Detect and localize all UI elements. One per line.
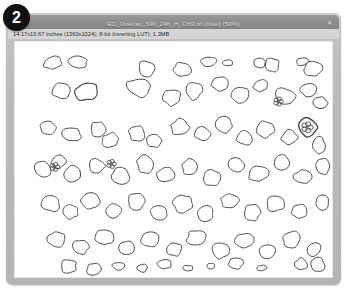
cell-outline [106,204,122,219]
cell-outline [222,60,232,66]
cell-cluster [50,162,59,171]
cell-outline [41,196,59,212]
cell-outline [236,130,252,145]
cell-outline [72,240,89,254]
cell-outline [299,117,318,137]
cell-outline [87,263,102,275]
cell-outline [90,159,106,174]
cell-outline [47,232,65,247]
window-title: EC_Overlay_SW_24h_H_CH2.tif (blue) (50%) [107,19,240,26]
image-window[interactable]: EC_Overlay_SW_24h_H_CH2.tif (blue) (50%)… [6,13,341,285]
cell-outline [52,83,70,99]
cell-outline [267,196,284,211]
cell-outline [95,230,114,245]
close-icon[interactable]: × [325,18,334,27]
cell-outline [62,260,77,273]
cell-outline [231,87,249,103]
cell-outline [172,195,192,213]
cell-outline [316,158,330,174]
cell-outline [204,170,221,186]
cell-segmentation-overlay [15,42,332,277]
cell-cluster [302,122,313,133]
cell-outline [249,166,269,181]
cell-outline [137,264,147,272]
cell-outline [194,126,211,140]
cell-outline [141,232,159,247]
cell-outline [291,204,307,218]
cell-outline [294,257,307,269]
cell-outline [257,265,267,271]
cell-outline [228,158,244,172]
cell-outline [91,122,106,137]
cell-outline [173,62,191,76]
cell-outline [304,61,323,76]
cell-outline [147,134,162,147]
cell-outline [212,243,229,259]
cell-outline [200,57,217,67]
title-bar[interactable]: EC_Overlay_SW_24h_H_CH2.tif (blue) (50%)… [8,15,339,29]
cell-outline [64,165,81,182]
cell-outline [150,206,167,220]
cell-outline [182,159,197,175]
cell-outline [126,79,150,98]
cell-outline [312,136,325,153]
cell-outline [221,194,240,208]
panel-badge-2: 2 [3,4,30,31]
cell-outline [171,118,190,134]
cell-outline [111,167,129,184]
image-info-text: 14.17x10.67 inches (1360x1024); 8-bit (i… [8,31,169,37]
cell-outline [254,58,266,68]
cell-outline [112,263,125,271]
cell-outline [81,193,101,209]
cell-outline [74,83,97,100]
cell-outline [68,56,87,68]
window-frame: EC_Overlay_SW_24h_H_CH2.tif (blue) (50%)… [6,13,341,285]
cell-outline [316,195,329,210]
cell-outline [307,243,321,257]
cell-outline [253,80,268,92]
cell-outline [293,170,312,184]
cell-outline [245,205,261,221]
cell-outline [297,58,309,66]
cell-outline [167,243,182,256]
cell-outline [157,167,175,181]
cell-outline [207,263,215,269]
image-canvas[interactable] [14,41,333,278]
cell-outline [183,265,193,270]
cell-cluster [274,97,283,106]
cell-outline [265,58,279,72]
cell-outline [259,245,275,259]
cell-outline [274,155,289,170]
cell-outline [157,260,171,269]
cell-outline [162,90,180,106]
cell-outline [313,97,328,109]
cell-outline [211,77,228,91]
cell-outline [311,257,325,271]
image-info-bar: 14.17x10.67 inches (1360x1024); 8-bit (i… [8,29,339,39]
cell-outline [62,128,82,141]
cell-cluster [107,159,116,168]
cell-outline [215,116,232,133]
cell-outline [63,205,78,220]
cell-outline [137,155,154,174]
cell-outline [300,83,317,96]
cell-outline [40,121,56,134]
cell-outline [198,206,213,222]
cell-outline [139,61,155,77]
cell-outline [129,126,145,141]
cell-outline [43,56,61,69]
cell-outline [119,241,135,254]
cell-outline [129,193,145,210]
cell-outline [235,233,254,248]
cell-outline [228,258,243,269]
cell-outline [186,83,203,101]
cell-outline [34,161,51,177]
cell-outline [257,121,275,138]
cell-outline [102,132,118,147]
cell-outline [281,129,298,144]
cell-outline [283,231,300,248]
cell-outline [186,231,206,245]
